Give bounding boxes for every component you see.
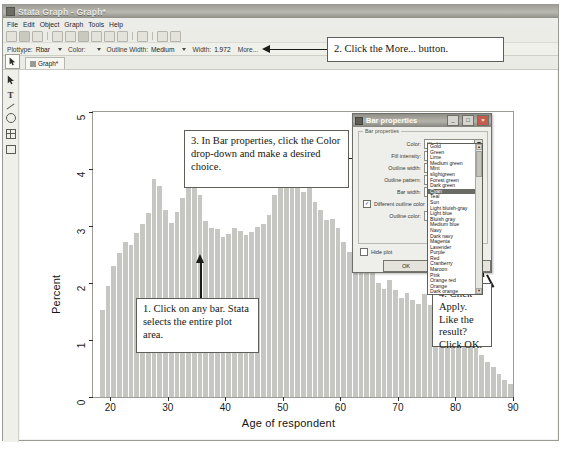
x-tick <box>455 397 456 401</box>
copy-icon[interactable] <box>65 31 76 42</box>
undo-icon[interactable] <box>117 31 128 42</box>
hide-plot-row[interactable]: Hide plot <box>360 248 392 256</box>
y-tick <box>89 340 93 341</box>
pointer-tool-button[interactable] <box>5 54 20 69</box>
menu-item-help[interactable]: Help <box>109 21 123 28</box>
callout-1: 1. Click on any bar. Stata selects the e… <box>136 298 259 353</box>
tab-graph[interactable]: Graph* <box>25 57 65 69</box>
menu-item-tools[interactable]: Tools <box>88 21 104 28</box>
callout-1-leader <box>200 262 202 298</box>
x-tick <box>168 397 169 401</box>
plottype-field[interactable]: Plottype: Rbar <box>7 46 50 53</box>
plottype-label: Plottype: <box>7 46 33 53</box>
y-axis-title: Percent <box>50 274 62 313</box>
x-tick <box>340 397 341 401</box>
graph-icon <box>30 61 36 67</box>
paste-icon[interactable] <box>78 31 89 42</box>
text-tool-icon[interactable]: T <box>7 91 13 100</box>
histogram-bar[interactable] <box>507 384 513 397</box>
dialog-app-icon <box>355 117 363 125</box>
color-option-list[interactable]: GoldGreenLimeMedium greenMintslightgreen… <box>428 144 475 294</box>
x-tick <box>283 397 284 401</box>
hide-plot-label: Hide plot <box>371 249 392 255</box>
y-tick-label: 5 <box>76 115 87 121</box>
color-dropdown-list[interactable]: GoldGreenLimeMedium greenMintslightgreen… <box>427 143 483 295</box>
bar-properties-dialog[interactable]: Bar properties _ □ × Bar properties Colo… <box>352 113 492 273</box>
x-tick <box>110 397 111 401</box>
callout-3: 3. In Bar properties, click the Color dr… <box>184 130 349 188</box>
outline-color-label: Outline color: <box>359 213 424 219</box>
menu-item-graph[interactable]: Graph <box>64 21 83 28</box>
outline-pattern-label: Outline pattern: <box>359 177 424 183</box>
rect-tool-icon[interactable] <box>6 145 16 154</box>
x-tick-label: 70 <box>392 402 403 413</box>
y-tick <box>89 112 93 113</box>
new-icon[interactable] <box>6 31 17 42</box>
left-toolbox: T <box>3 70 19 442</box>
dropdown-scrollbar[interactable]: ▲ ▼ <box>475 144 482 294</box>
cut-icon[interactable] <box>52 31 63 42</box>
different-outline-color-checkbox[interactable]: ✓ <box>363 200 371 208</box>
minimize-button[interactable]: _ <box>447 115 459 126</box>
hide-plot-checkbox[interactable] <box>360 248 368 256</box>
tab-graph-label: Graph* <box>38 60 58 67</box>
save-icon[interactable] <box>19 31 30 42</box>
ellipse-tool-icon[interactable] <box>6 113 16 123</box>
menu-item-object[interactable]: Object <box>40 21 60 28</box>
y-tick-label: 1 <box>76 343 87 349</box>
x-tick-label: 50 <box>277 402 288 413</box>
scroll-up-icon[interactable]: ▲ <box>476 144 482 150</box>
more-label: More... <box>238 46 259 53</box>
line-tool-icon[interactable] <box>7 104 15 110</box>
menu-item-edit[interactable]: Edit <box>23 21 35 28</box>
dialog-title: Bar properties <box>366 116 444 125</box>
scroll-down-icon[interactable]: ▼ <box>476 288 482 294</box>
x-tick-label: 20 <box>105 402 116 413</box>
bar-width-label: Bar width: <box>359 189 424 195</box>
record-icon[interactable] <box>170 31 181 42</box>
more-button[interactable]: More... <box>238 46 259 53</box>
grid-icon[interactable] <box>137 31 148 42</box>
x-tick-label: 30 <box>162 402 173 413</box>
play-icon[interactable] <box>157 31 168 42</box>
window-title: Stata Graph - Graph* <box>18 7 106 17</box>
y-tick <box>89 397 93 398</box>
menu-bar: File Edit Object Graph Tools Help <box>3 18 558 30</box>
callout-1-arrowhead <box>196 254 204 263</box>
pointer-tool-icon[interactable] <box>7 75 15 85</box>
y-tick <box>89 169 93 170</box>
chevron-down-icon-plottype[interactable] <box>58 48 62 51</box>
maximize-button[interactable]: □ <box>462 115 474 126</box>
y-tick-label: 2 <box>76 286 87 292</box>
color-option[interactable]: Dark orange <box>428 289 475 295</box>
x-tick <box>225 397 226 401</box>
zoom-in-icon[interactable] <box>91 31 102 42</box>
screenshot-root: Stata Graph - Graph* File Edit Object Gr… <box>0 0 563 449</box>
grid-tool-icon[interactable] <box>6 129 16 139</box>
y-tick-label: 0 <box>76 400 87 406</box>
outline-width-field[interactable]: Outline Width: Medium <box>107 46 175 53</box>
zoom-out-icon[interactable] <box>104 31 115 42</box>
width-field[interactable]: Width: 1.972 <box>192 46 230 53</box>
scrollbar-thumb[interactable] <box>476 151 482 177</box>
width-value: 1.972 <box>214 46 231 53</box>
menu-item-file[interactable]: File <box>7 21 18 28</box>
y-tick <box>89 226 93 227</box>
x-tick-label: 40 <box>220 402 231 413</box>
x-tick <box>513 397 514 401</box>
arrow-cursor-icon <box>9 57 16 66</box>
x-tick-label: 80 <box>450 402 461 413</box>
callout-2: 2. Click the More... button. <box>327 37 504 62</box>
fill-intensity-label: Fill intensity: <box>359 153 424 159</box>
x-tick-label: 60 <box>335 402 346 413</box>
y-tick-label: 4 <box>76 172 87 178</box>
chevron-down-icon-color[interactable] <box>97 48 101 51</box>
close-icon[interactable]: × <box>477 115 489 126</box>
y-tick-label: 3 <box>76 229 87 235</box>
x-axis-title: Age of respondent <box>20 417 557 429</box>
ok-button[interactable]: OK <box>383 260 429 272</box>
chevron-down-icon-outline-width[interactable] <box>182 48 186 51</box>
outline-width-value: Medium <box>151 46 174 53</box>
print-icon[interactable] <box>32 31 43 42</box>
color-field[interactable]: Color: <box>68 46 89 53</box>
